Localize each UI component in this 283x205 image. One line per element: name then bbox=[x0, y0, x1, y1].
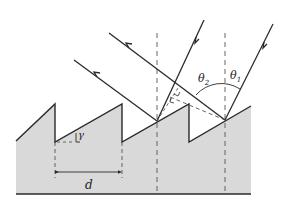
diffracted-ray-left-arrow bbox=[94, 72, 100, 77]
right-angle-mark-1 bbox=[174, 92, 180, 96]
theta1-subscript: 1 bbox=[237, 76, 241, 84]
gamma-label: γ bbox=[78, 129, 84, 140]
diffracted-ray-right-arrow bbox=[126, 43, 132, 48]
theta-angle-arc bbox=[196, 84, 240, 95]
incident-ray-right-arrow bbox=[263, 42, 267, 48]
grating-substrate bbox=[16, 104, 251, 194]
blazed-grating-diagram: d γ θ2 θ1 bbox=[0, 0, 283, 205]
incident-ray-left bbox=[157, 20, 204, 121]
theta2-subscript: 2 bbox=[204, 79, 210, 87]
theta1-label: θ1 bbox=[230, 69, 241, 84]
theta2-label: θ2 bbox=[198, 72, 210, 87]
diffracted-ray-right bbox=[109, 33, 225, 120]
diagram-canvas: d γ θ2 θ1 bbox=[0, 0, 283, 205]
incident-ray-left-arrow bbox=[195, 37, 199, 43]
period-label: d bbox=[85, 178, 93, 192]
